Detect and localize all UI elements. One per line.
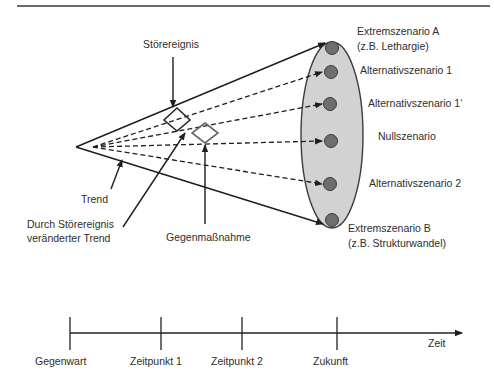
scenario-dot-alt-2 <box>324 178 337 191</box>
timeline-axis-label: Zeit <box>428 337 446 349</box>
path-alt-1 <box>93 72 322 147</box>
label-extreme-a: Extremszenario A <box>357 25 439 37</box>
scenario-dot-extreme-b <box>326 214 339 227</box>
timeline-label-zeitpunkt-2: Zeitpunkt 2 <box>211 355 263 367</box>
label-changed-trend-2: veränderter Trend <box>27 232 111 244</box>
label-alt-1: Alternativszenario 1 <box>360 64 452 76</box>
arrow-changed-trend <box>123 133 185 227</box>
arrow-trend <box>111 160 122 189</box>
timeline-label-zeitpunkt-1: Zeitpunkt 1 <box>130 355 182 367</box>
timeline-label-zukunft: Zukunft <box>313 355 348 367</box>
label-stoerereignis: Störereignis <box>143 38 199 50</box>
label-changed-trend-1: Durch Störereignis <box>27 218 114 230</box>
label-trend: Trend <box>81 193 108 205</box>
label-alt-2: Alternativszenario 2 <box>369 177 461 189</box>
label-extreme-b: Extremszenario B <box>348 222 431 234</box>
label-extreme-a-example: (z.B. Lethargie) <box>357 40 429 52</box>
label-extreme-b-example: (z.B. Strukturwandel) <box>348 237 446 249</box>
label-null: Nullszenario <box>378 130 436 142</box>
scenario-dot-alt-1-prime <box>324 98 337 111</box>
funnel-upper-boundary <box>76 43 325 147</box>
label-gegenmassnahme: Gegenmaßnahme <box>166 231 251 243</box>
scenario-funnel-diagram: Störereignis Trend Durch Störereignis ve… <box>0 0 494 371</box>
scenario-dot-null <box>325 135 338 148</box>
timeline-label-gegenwart: Gegenwart <box>35 355 86 367</box>
scenario-dot-extreme-a <box>326 42 339 55</box>
label-alt-1-prime: Alternativszenario 1‘ <box>368 97 463 109</box>
scenario-dot-alt-1 <box>325 66 338 79</box>
path-alt-2 <box>93 147 322 184</box>
